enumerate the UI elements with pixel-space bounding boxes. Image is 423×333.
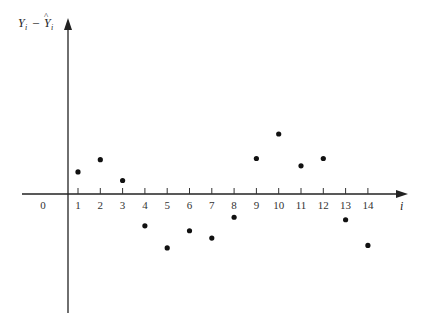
residual-scatter-plot: 1234567891011121314 0 i Y i – Y i ^ bbox=[0, 0, 423, 333]
x-tick-label: 8 bbox=[231, 199, 237, 211]
svg-text:i: i bbox=[51, 23, 53, 32]
data-point bbox=[120, 178, 125, 183]
y-axis-arrow-icon bbox=[64, 18, 72, 30]
svg-text:–: – bbox=[32, 15, 40, 29]
x-tick-label: 10 bbox=[273, 199, 285, 211]
x-axis-label: i bbox=[400, 199, 403, 213]
data-point bbox=[98, 157, 103, 162]
svg-text:i: i bbox=[25, 23, 27, 32]
x-axis-tick-labels: 1234567891011121314 bbox=[75, 199, 374, 211]
x-tick-label: 11 bbox=[296, 199, 307, 211]
x-axis-ticks bbox=[78, 188, 368, 194]
data-point bbox=[75, 169, 80, 174]
x-tick-label: 7 bbox=[209, 199, 215, 211]
x-tick-label: 6 bbox=[187, 199, 193, 211]
data-point bbox=[343, 217, 348, 222]
x-axis bbox=[22, 190, 408, 198]
x-tick-label: 3 bbox=[120, 199, 126, 211]
x-tick-label: 1 bbox=[75, 199, 81, 211]
data-point bbox=[142, 223, 147, 228]
origin-label: 0 bbox=[40, 199, 46, 211]
data-point bbox=[232, 215, 237, 220]
data-point bbox=[298, 163, 303, 168]
data-point bbox=[321, 156, 326, 161]
y-axis bbox=[64, 18, 72, 313]
data-point bbox=[165, 245, 170, 250]
data-point bbox=[254, 156, 259, 161]
y-axis-label: Y i – Y i ^ bbox=[18, 11, 53, 32]
data-points bbox=[75, 131, 370, 250]
data-point bbox=[187, 228, 192, 233]
data-point bbox=[276, 131, 281, 136]
x-axis-arrow-icon bbox=[396, 190, 408, 198]
x-tick-label: 4 bbox=[142, 199, 148, 211]
x-tick-label: 14 bbox=[362, 199, 374, 211]
data-point bbox=[365, 243, 370, 248]
x-tick-label: 2 bbox=[98, 199, 104, 211]
x-tick-label: 13 bbox=[340, 199, 352, 211]
x-tick-label: 12 bbox=[318, 199, 329, 211]
x-tick-label: 5 bbox=[164, 199, 170, 211]
data-point bbox=[209, 236, 214, 241]
x-tick-label: 9 bbox=[254, 199, 260, 211]
